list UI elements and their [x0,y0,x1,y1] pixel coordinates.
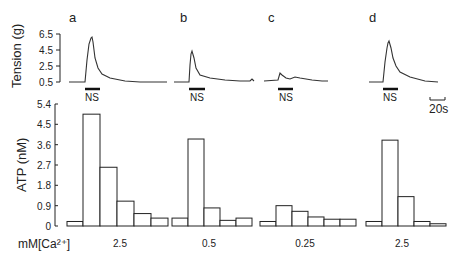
panel-label-c: c [268,10,275,25]
atp-bar-b-1 [172,218,188,226]
ns-label-c: NS [279,92,293,103]
tension-tick: 6.5 [39,29,53,40]
atp-axis: ATP (nM) 5.4 4.5 3.6 2.7 1.8 0.9 0 [14,99,58,232]
atp-tick: 3.6 [37,140,51,151]
atp-bar-d-1 [366,221,382,226]
figure: a b c d Tension (g) 6.5 4.5 2.5 0.5 NS N… [0,0,462,269]
atp-axis-label: ATP (nM) [14,138,29,192]
atp-bar-a-5 [134,214,151,226]
ns-label-a: NS [85,92,99,103]
atp-bar-c-5 [324,219,340,226]
trace-c [240,73,328,81]
atp-bar-c-3 [292,211,308,226]
ca-value-d: 2.5 [395,238,409,249]
ca-value-c: 0.25 [295,238,315,249]
atp-bar-c-2 [276,206,292,226]
ns-label-d: NS [383,92,397,103]
atp-tick: 4.5 [37,119,51,130]
atp-tick: 5.4 [37,99,51,110]
ca-value-a: 2.5 [113,238,127,249]
atp-bar-a-4 [117,201,134,226]
trace-b [174,51,240,82]
atp-bar-d-5 [430,224,446,226]
atp-bar-a-1 [67,221,83,226]
atp-bar-b-4 [220,220,236,226]
atp-bar-d-2 [382,140,398,226]
panel-label-a: a [69,10,77,25]
trace-a [69,37,167,82]
ns-label-b: NS [190,92,204,103]
atp-bar-a-3 [100,167,117,226]
tension-tick: 4.5 [39,45,53,56]
tension-axis-label: Tension (g) [9,24,24,88]
atp-bar-b-5 [236,218,252,226]
stimulus-markers: NS NS NS NS [85,89,398,103]
atp-bar-d-4 [414,221,430,226]
ca-axis-label: mM[Ca²⁺] [18,237,70,251]
scale-label: 20s [429,102,448,116]
atp-bar-c-4 [308,217,324,226]
atp-bar-c-6 [340,219,356,226]
atp-bars [67,114,446,226]
trace-d [369,41,438,82]
atp-bar-b-3 [204,208,220,226]
atp-tick: 2.7 [37,160,51,171]
atp-bar-c-1 [260,221,276,226]
time-scale-bar: 20s [429,97,448,116]
atp-tick: 1.8 [37,180,51,191]
tension-tick: 2.5 [39,61,53,72]
atp-tick: 0 [45,221,51,232]
atp-bar-d-3 [398,197,414,226]
atp-tick: 0.9 [37,201,51,212]
atp-bar-a-2 [83,114,100,226]
tension-axis: Tension (g) 6.5 4.5 2.5 0.5 [9,24,60,88]
tension-tick: 0.5 [39,77,53,88]
atp-bar-a-6 [151,218,168,226]
panel-label-d: d [369,10,376,25]
tension-traces [69,37,438,82]
ca-value-b: 0.5 [202,238,216,249]
panel-label-b: b [180,10,187,25]
atp-bar-b-2 [188,139,204,226]
